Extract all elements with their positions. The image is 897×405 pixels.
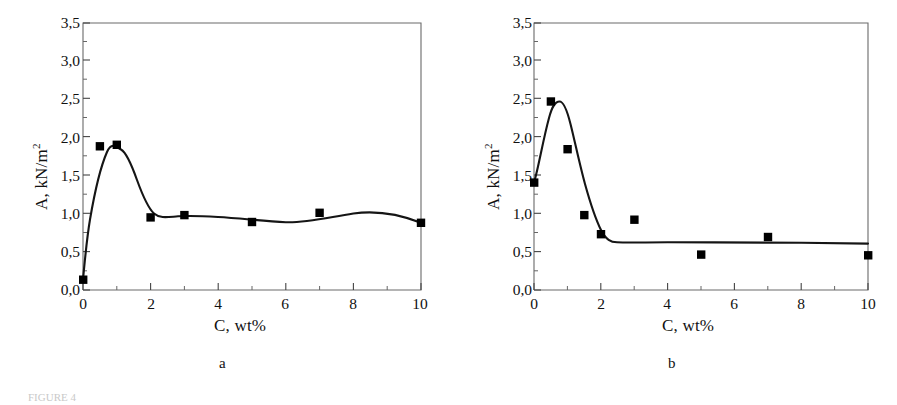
data-point-marker <box>248 218 256 226</box>
data-markers-b <box>530 97 872 259</box>
x-axis-minor-ticks-a <box>117 286 387 290</box>
chart-panel-a: A, kN/m2 3,5 3,0 2,5 2,0 1,5 1,0 0,5 0,0… <box>0 0 450 380</box>
plot-frame-a <box>83 23 421 290</box>
panel-letter-b: b <box>668 355 676 372</box>
y-axis-minor-ticks-b <box>534 42 538 271</box>
data-point-marker <box>630 216 638 224</box>
plot-svg-b <box>450 0 897 340</box>
data-point-marker <box>315 209 323 217</box>
y-axis-minor-ticks-a <box>83 42 87 271</box>
x-axis-minor-ticks-b <box>567 286 834 290</box>
data-point-marker <box>764 233 772 241</box>
data-point-marker <box>113 141 121 149</box>
data-point-marker <box>547 97 555 105</box>
data-point-marker <box>697 250 705 258</box>
figure-caption-cropped: FIGURE 4 <box>0 393 897 405</box>
data-point-marker <box>146 213 154 221</box>
data-point-marker <box>530 178 538 186</box>
data-point-marker <box>96 142 104 150</box>
chart-panel-b: A, kN/m2 3,5 3,0 2,5 2,0 1,5 1,0 0,5 0,0… <box>450 0 897 380</box>
data-point-marker <box>864 251 872 259</box>
plot-frame-b <box>534 23 868 290</box>
figure-container: A, kN/m2 3,5 3,0 2,5 2,0 1,5 1,0 0,5 0,0… <box>0 0 897 405</box>
data-curve-b <box>534 102 868 244</box>
data-point-marker <box>180 211 188 219</box>
data-point-marker <box>580 211 588 219</box>
plot-svg-a <box>0 0 450 340</box>
data-point-marker <box>417 219 425 227</box>
data-curve-a <box>83 146 421 280</box>
panel-letter-a: a <box>219 355 226 372</box>
data-point-marker <box>563 145 571 153</box>
data-point-marker <box>597 230 605 238</box>
data-point-marker <box>79 276 87 284</box>
